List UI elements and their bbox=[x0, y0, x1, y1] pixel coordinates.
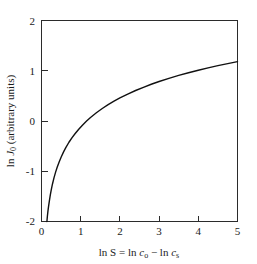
x-axis-title-minus: − ln bbox=[148, 246, 171, 258]
x-tick-label: 2 bbox=[117, 225, 123, 237]
x-axis-title-prefix: ln S = ln bbox=[99, 246, 139, 258]
y-tick-label: -2 bbox=[26, 215, 35, 227]
data-curve bbox=[47, 62, 238, 222]
y-axis-title-suffix: (arbitrary units) bbox=[4, 75, 17, 147]
y-tick-label: -1 bbox=[26, 165, 35, 177]
y-axis-title: ln J0 (arbitrary units) bbox=[4, 75, 18, 168]
x-tick-label: 3 bbox=[156, 225, 162, 237]
x-tick-label: 4 bbox=[196, 225, 202, 237]
chart-plot: 0 1 2 3 4 5 -2 -1 0 1 2 ln S = ln co − l… bbox=[0, 0, 257, 264]
plot-frame bbox=[42, 21, 238, 222]
y-axis-title-prefix: ln bbox=[4, 156, 16, 167]
y-tick-label: 2 bbox=[30, 15, 36, 27]
y-tick-label: 0 bbox=[30, 115, 36, 127]
y-axis-ticks bbox=[42, 21, 48, 222]
x-tick-label: 1 bbox=[78, 225, 84, 237]
x-tick-label: 5 bbox=[235, 225, 241, 237]
y-tick-label: 1 bbox=[30, 65, 36, 77]
x-axis-title: ln S = ln co − ln cs bbox=[99, 246, 179, 260]
x-axis-ticks bbox=[42, 216, 238, 222]
x-tick-label: 0 bbox=[39, 225, 45, 237]
y-axis-tick-labels: -2 -1 0 1 2 bbox=[26, 15, 36, 228]
figure-container: 0 1 2 3 4 5 -2 -1 0 1 2 ln S = ln co − l… bbox=[0, 0, 257, 264]
x-axis-title-sub2: s bbox=[176, 251, 179, 260]
x-axis-tick-labels: 0 1 2 3 4 5 bbox=[39, 225, 241, 237]
